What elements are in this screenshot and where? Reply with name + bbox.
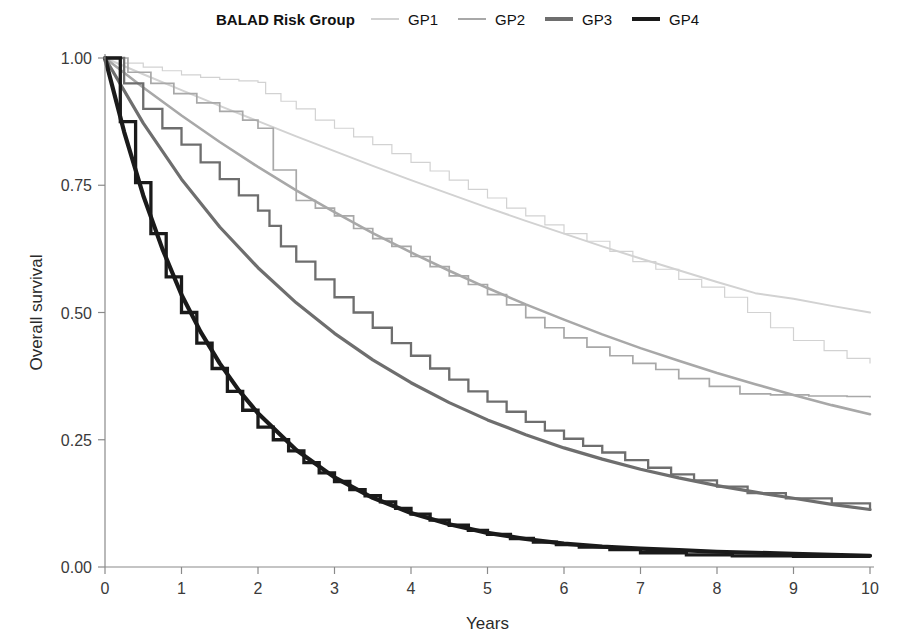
x-tick-label: 4 xyxy=(407,580,416,597)
legend-entry-gp4: GP4 xyxy=(632,11,699,28)
curve-gp1-model xyxy=(105,58,870,313)
curve-gp4-model xyxy=(105,58,870,556)
legend-label-gp1: GP1 xyxy=(408,11,438,28)
legend-title: BALAD Risk Group xyxy=(216,11,355,28)
legend-entry-gp1: GP1 xyxy=(371,11,438,28)
legend-label-gp3: GP3 xyxy=(582,11,612,28)
x-tick-label: 6 xyxy=(560,580,569,597)
legend-swatch-gp3 xyxy=(545,17,573,20)
y-tick-label: 0.50 xyxy=(61,305,92,322)
legend-entry-gp2: GP2 xyxy=(458,11,525,28)
x-tick-label: 7 xyxy=(636,580,645,597)
legend-label-gp2: GP2 xyxy=(495,11,525,28)
legend-entry-gp3: GP3 xyxy=(545,11,612,28)
curve-gp4-km xyxy=(105,58,870,557)
y-tick-label: 0.25 xyxy=(61,432,92,449)
survival-chart-figure: BALAD Risk Group GP1 GP2 GP3 GP4 0.000.2… xyxy=(0,0,915,637)
legend-swatch-gp2 xyxy=(458,18,486,21)
chart-legend: BALAD Risk Group GP1 GP2 GP3 GP4 xyxy=(0,4,915,34)
x-tick-label: 1 xyxy=(177,580,186,597)
x-tick-label: 5 xyxy=(483,580,492,597)
survival-plot-svg: 0.000.250.500.751.00012345678910YearsOve… xyxy=(0,34,915,637)
legend-label-gp4: GP4 xyxy=(669,11,699,28)
x-tick-label: 3 xyxy=(330,580,339,597)
legend-swatch-gp1 xyxy=(371,18,399,20)
x-tick-label: 9 xyxy=(789,580,798,597)
legend-swatch-gp4 xyxy=(632,17,660,21)
plot-area: 0.000.250.500.751.00012345678910YearsOve… xyxy=(0,34,915,637)
x-tick-label: 10 xyxy=(861,580,879,597)
y-tick-label: 0.75 xyxy=(61,177,92,194)
x-axis-title: Years xyxy=(466,614,509,633)
y-tick-label: 1.00 xyxy=(61,50,92,67)
x-tick-label: 0 xyxy=(101,580,110,597)
y-axis-title: Overall survival xyxy=(27,254,46,370)
axis-layer xyxy=(98,54,874,574)
x-tick-label: 8 xyxy=(713,580,722,597)
curves-layer xyxy=(105,58,870,557)
y-tick-label: 0.00 xyxy=(61,559,92,576)
x-tick-label: 2 xyxy=(254,580,263,597)
